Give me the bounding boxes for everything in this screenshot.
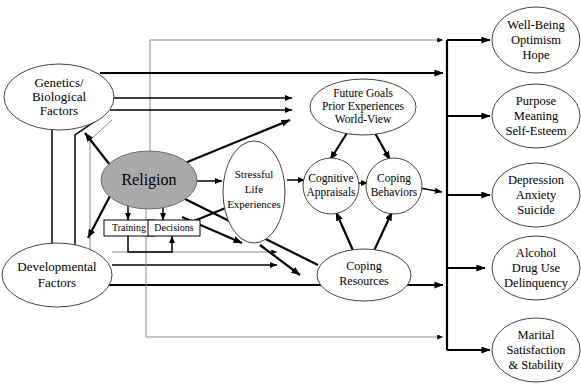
edge-future-goals-to-cognitive (330, 133, 347, 160)
node-coping-resources-line-1: Coping (346, 259, 381, 273)
node-training-label: Training (112, 222, 146, 233)
node-stressful-line-1: Stressful (235, 168, 274, 180)
node-developmental-line-1: Developmental (17, 259, 97, 274)
node-religion-label: Religion (121, 171, 176, 189)
node-cognitive-line-2: Appraisals (306, 186, 356, 199)
node-alcohol-line-2: Drug Use (512, 261, 561, 275)
node-future-goals-line-1: Future Goals (333, 87, 393, 99)
node-wellbeing[interactable]: Well-Being Optimism Hope (492, 7, 580, 73)
node-coping-behaviors-line-2: Behaviors (371, 186, 418, 198)
node-depression-line-3: Suicide (517, 203, 555, 217)
node-wellbeing-line-1: Well-Being (507, 18, 565, 32)
node-purpose-line-1: Purpose (516, 94, 557, 108)
node-cognitive-line-1: Cognitive (308, 172, 353, 185)
edge-stressful-to-coping-resources (260, 245, 300, 275)
node-future-goals-line-3: World-View (335, 113, 392, 125)
node-purpose-line-2: Meaning (514, 109, 559, 123)
edge-coping-resources-to-cognitive (336, 212, 355, 255)
node-alcohol-line-3: Delinquency (504, 276, 569, 290)
node-training[interactable]: Training (104, 220, 154, 236)
node-coping-behaviors[interactable]: Coping Behaviors (366, 158, 422, 214)
node-future-goals-line-2: Prior Experiences (322, 100, 405, 113)
node-depression[interactable]: Depression Anxiety Suicide (492, 163, 580, 227)
edge-developmental-to-genetics (75, 118, 100, 255)
node-wellbeing-line-3: Hope (522, 48, 550, 62)
node-genetics-line-2: Biological (32, 89, 87, 104)
edge-coping-behaviors-to-bus (420, 188, 442, 192)
node-wellbeing-line-2: Optimism (511, 33, 561, 47)
edge-training-decisions-loop (128, 236, 172, 252)
node-developmental-line-2: Factors (38, 275, 76, 290)
node-decisions[interactable]: Decisions (148, 220, 200, 236)
node-genetics[interactable]: Genetics/ Biological Factors (4, 64, 114, 130)
node-coping-behaviors-line-1: Coping (377, 172, 411, 185)
node-stressful-line-2: Life (245, 183, 263, 195)
edge-coping-resources-to-coping-behaviors (372, 212, 392, 255)
node-developmental[interactable]: Developmental Factors (2, 243, 112, 307)
node-depression-line-1: Depression (508, 173, 565, 187)
node-genetics-line-1: Genetics/ (34, 75, 83, 90)
node-depression-line-2: Anxiety (516, 188, 557, 202)
node-religion[interactable]: Religion (101, 151, 197, 209)
node-marital-line-1: Marital (518, 328, 555, 342)
node-coping-resources[interactable]: Coping Resources (317, 249, 411, 301)
node-marital-line-3: & Stability (508, 358, 564, 372)
node-marital-line-2: Satisfaction (506, 343, 566, 357)
node-purpose-line-3: Self-Esteem (505, 124, 566, 138)
node-marital[interactable]: Marital Satisfaction & Stability (492, 318, 580, 382)
node-stressful[interactable]: Stressful Life Experiences (223, 141, 285, 243)
node-alcohol-line-1: Alcohol (516, 246, 557, 260)
node-future-goals[interactable]: Future Goals Prior Experiences World-Vie… (310, 79, 416, 135)
node-genetics-line-3: Factors (40, 103, 78, 118)
node-decisions-label: Decisions (154, 222, 194, 233)
node-alcohol[interactable]: Alcohol Drug Use Delinquency (492, 236, 580, 300)
edge-future-goals-to-coping-behaviors (375, 133, 390, 160)
node-coping-resources-line-2: Resources (339, 274, 389, 288)
node-stressful-line-3: Experiences (227, 198, 281, 210)
edge-religion-to-genetics (85, 133, 110, 165)
diagram-canvas: Genetics/ Biological Factors Development… (0, 0, 581, 386)
node-cognitive-appraisals[interactable]: Cognitive Appraisals (303, 158, 359, 214)
node-purpose[interactable]: Purpose Meaning Self-Esteem (492, 84, 580, 148)
